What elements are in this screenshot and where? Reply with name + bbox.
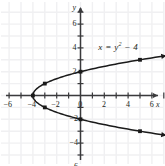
x-tick-label: 4 xyxy=(126,101,130,109)
x-axis-arrow xyxy=(153,93,158,98)
curve-arrowhead xyxy=(161,132,165,137)
curve-arrowhead xyxy=(161,54,165,59)
x-tick-label: −2 xyxy=(51,101,60,109)
y-axis-arrow xyxy=(78,7,83,12)
y-tick-label: −2 xyxy=(70,115,79,123)
equation-label: x = y2 − 4 xyxy=(98,41,138,52)
data-point xyxy=(31,94,35,98)
y-tick-label: 6 xyxy=(73,20,77,28)
x-axis-name: x xyxy=(156,101,160,109)
y-tick-label: −4 xyxy=(70,139,79,147)
y-tick-label: 2 xyxy=(73,68,77,76)
y-tick-label: −6 xyxy=(70,163,79,166)
data-point xyxy=(138,129,142,133)
x-tick-label: −6 xyxy=(4,101,13,109)
graph-figure: x y x = y2 − 4 −6−4−20246642−2−4−6 xyxy=(0,0,165,166)
x-tick-label: 6 xyxy=(150,101,154,109)
plot-layer xyxy=(0,0,165,166)
data-point xyxy=(79,70,83,74)
data-point xyxy=(138,58,142,62)
x-tick-label: 2 xyxy=(102,101,106,109)
data-point xyxy=(43,82,47,86)
y-tick-label: 4 xyxy=(73,44,77,52)
data-point xyxy=(79,117,83,121)
y-axis-name: y xyxy=(73,4,77,12)
x-tick-label: −4 xyxy=(27,101,36,109)
x-tick-label: 0 xyxy=(78,101,82,109)
data-point xyxy=(43,106,47,110)
